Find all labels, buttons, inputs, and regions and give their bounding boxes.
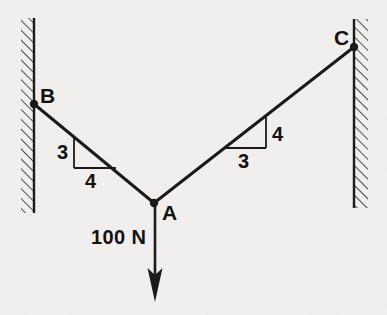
slope-triangle-right-horizontal-label: 3	[238, 151, 249, 171]
cable-member-ac	[154, 47, 354, 203]
load-force-arrow	[148, 205, 163, 302]
point-label-c: C	[334, 27, 349, 48]
figure-canvas: B C A 3 4 4 3 100 N	[0, 0, 387, 315]
left-wall-hatching	[21, 18, 34, 213]
load-force-label: 100 N	[91, 227, 146, 247]
left-wall	[21, 18, 34, 213]
slope-triangle-left-vertical-label: 3	[57, 142, 68, 162]
point-label-b: B	[40, 85, 55, 106]
joint-dot-c	[350, 43, 358, 51]
joint-dot-b	[30, 100, 38, 108]
slope-triangle-left-horizontal-label: 4	[85, 171, 96, 191]
point-label-a: A	[162, 202, 177, 223]
slope-triangle-right-vertical-label: 4	[272, 124, 283, 144]
